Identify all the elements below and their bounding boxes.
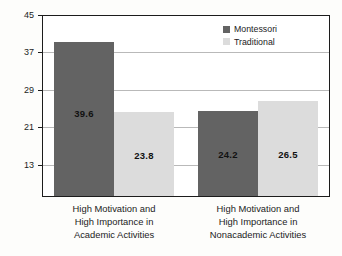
x-axis-labels: High Motivation and High Importance in A… [42, 202, 330, 252]
plot-area: 39.6 23.8 24.2 26.5 Montessori Tradition… [42, 15, 330, 197]
x-label-academic-line3: Academic Activities [42, 228, 186, 241]
bar-nonacademic-montessori[interactable]: 24.2 [198, 111, 258, 196]
x-label-nonacademic: High Motivation and High Importance in N… [186, 202, 330, 242]
x-label-nonacademic-line1: High Motivation and [186, 202, 330, 215]
bar-value-academic-traditional: 23.8 [114, 150, 174, 161]
legend-swatch-montessori-icon [223, 26, 230, 33]
bar-chart: Percent in Quadrant 45 37 29 21 13 39.6 … [0, 0, 342, 256]
bar-academic-traditional[interactable]: 23.8 [114, 112, 174, 196]
legend-item-montessori[interactable]: Montessori [223, 23, 277, 36]
x-label-academic-line1: High Motivation and [42, 202, 186, 215]
legend-swatch-traditional-icon [223, 38, 230, 45]
legend-label-traditional: Traditional [234, 36, 275, 49]
legend: Montessori Traditional [223, 23, 277, 48]
bar-nonacademic-traditional[interactable]: 26.5 [258, 101, 318, 196]
bars-layer: 39.6 23.8 24.2 26.5 [43, 16, 329, 196]
y-tick-label-21: 21 [24, 122, 34, 132]
y-tick-label-37: 37 [24, 47, 34, 57]
bar-value-nonacademic-traditional: 26.5 [258, 149, 318, 160]
x-label-nonacademic-line2: High Importance in [186, 215, 330, 228]
x-label-academic-line2: High Importance in [42, 215, 186, 228]
legend-label-montessori: Montessori [234, 23, 277, 36]
y-tick-label-13: 13 [24, 160, 34, 170]
y-axis-ticks: 45 37 29 21 13 [0, 0, 42, 212]
y-tick-label-45: 45 [24, 10, 34, 20]
bar-value-academic-montessori: 39.6 [54, 108, 114, 119]
legend-item-traditional[interactable]: Traditional [223, 36, 277, 49]
bar-academic-montessori[interactable]: 39.6 [54, 42, 114, 196]
y-tick-label-29: 29 [24, 85, 34, 95]
x-label-nonacademic-line3: Nonacademic Activities [186, 228, 330, 241]
bar-value-nonacademic-montessori: 24.2 [198, 149, 258, 160]
x-label-academic: High Motivation and High Importance in A… [42, 202, 186, 242]
